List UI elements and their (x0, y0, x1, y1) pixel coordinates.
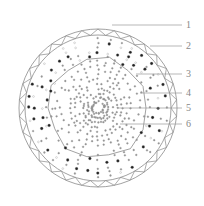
label-3: 3 (186, 69, 191, 79)
label-2: 2 (186, 41, 191, 51)
inner-boundary (48, 57, 146, 156)
diagram-drawing (0, 0, 204, 206)
label-1: 1 (186, 20, 191, 30)
label-4: 4 (186, 88, 191, 98)
label-6: 6 (186, 119, 191, 129)
label-5: 5 (186, 103, 191, 113)
cross-section-diagram: 1 2 3 4 5 6 (0, 0, 204, 206)
